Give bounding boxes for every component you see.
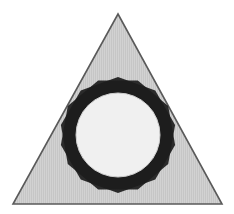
inscribed-circle-shape xyxy=(76,93,160,177)
figure-root: Inscribed nine-pointed star and circle w… xyxy=(0,0,234,214)
geometric-figure-canvas: Inscribed nine-pointed star and circle w… xyxy=(0,0,234,214)
